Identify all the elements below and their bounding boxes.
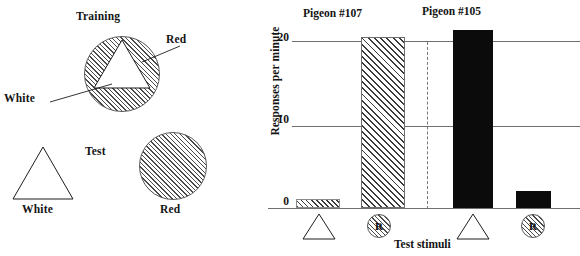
test-white-label: White [22, 203, 53, 215]
gridline-10 [292, 126, 580, 127]
x-tick-icon-letter-2: R [529, 220, 537, 232]
test-red-label: Red [160, 203, 180, 215]
x-tick-icon-circle-R-1: R [367, 214, 391, 238]
x-tick-icon-letter-1: R [375, 220, 383, 232]
bar-p107-red [361, 37, 405, 208]
group-title-pigeon-105: Pigeon #105 [422, 5, 481, 17]
group-title-pigeon-107: Pigeon #107 [303, 7, 362, 19]
x-tick-icon-circle-R-2: R [521, 214, 545, 238]
training-white-label: White [4, 92, 35, 104]
bar-p107-triangle [296, 199, 340, 208]
test-white-triangle [12, 146, 74, 200]
test-label: Test [85, 145, 106, 157]
x-axis-baseline [268, 208, 580, 209]
bar-p105-triangle [453, 30, 493, 208]
gridline-20 [292, 41, 580, 42]
white-leader-line [48, 82, 114, 104]
test-red-circle [139, 132, 207, 200]
y-tick-label-20: 20 [267, 31, 289, 43]
y-tick-label-10: 10 [267, 113, 289, 125]
red-leader-line [140, 44, 194, 64]
figure-root: Training Red White Test White Red Pigeon… [0, 0, 580, 256]
group-divider-dashed [427, 42, 428, 209]
x-tick-icon-triangle-1 [302, 213, 336, 240]
y-tick-label-0: 0 [267, 195, 289, 207]
x-axis-title: Test stimuli [394, 238, 451, 250]
x-tick-icon-triangle-2 [456, 213, 490, 240]
training-red-label: Red [166, 33, 186, 45]
training-label: Training [76, 10, 120, 22]
stimulus-panel: Training Red White Test White Red [0, 0, 250, 256]
bar-chart: Pigeon #107 Pigeon #105 Responses per mi… [250, 0, 580, 256]
bar-p105-red [516, 191, 551, 208]
